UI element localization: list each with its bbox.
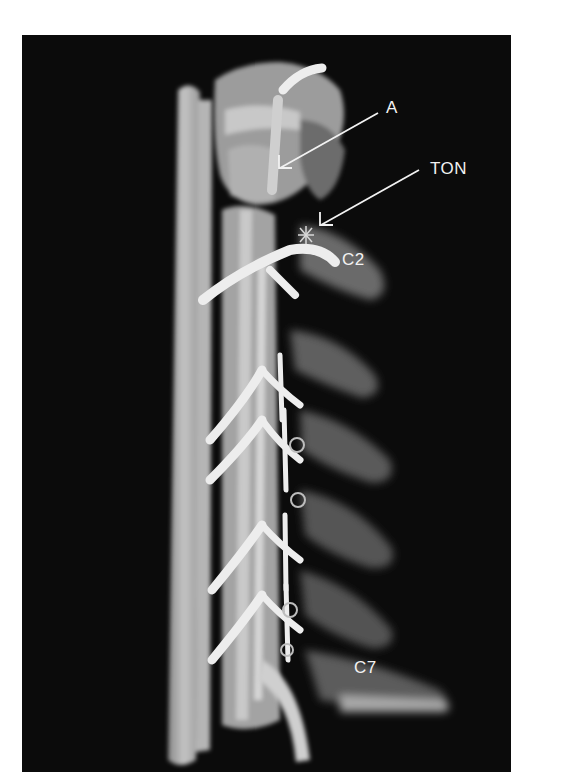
label-c2: C2 [342, 251, 365, 268]
label-ton: TON [430, 160, 467, 177]
ton-star-marker [298, 226, 314, 244]
anterior-support-bar [168, 85, 212, 765]
label-a: A [386, 99, 398, 116]
spine-model-figure: A TON C2 C7 [22, 35, 511, 772]
label-c7: C7 [354, 659, 377, 676]
spinous-processes [290, 225, 449, 712]
spine-model-illustration [22, 35, 511, 772]
